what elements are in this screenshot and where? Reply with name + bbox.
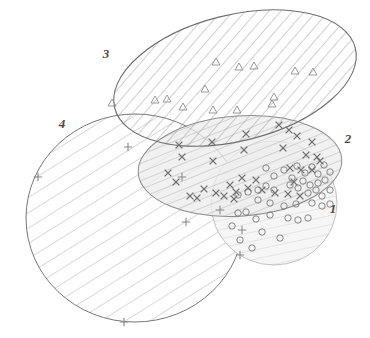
region-label-4: 4 bbox=[58, 116, 66, 131]
venn-diagram: 1234 bbox=[0, 0, 370, 338]
region-label-2: 2 bbox=[344, 131, 352, 146]
region-label-3: 3 bbox=[102, 46, 110, 61]
region-label-1: 1 bbox=[330, 201, 337, 216]
figure-canvas: 1234 bbox=[0, 0, 370, 338]
